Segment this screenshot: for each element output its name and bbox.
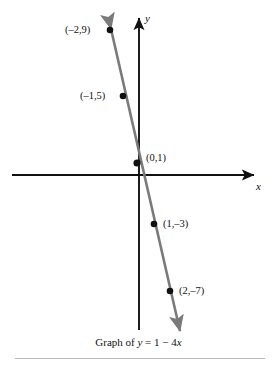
bottom-divider	[15, 358, 265, 359]
point-label: (2,–7)	[179, 286, 204, 297]
point-label: (0,1)	[146, 153, 166, 164]
point-label: (–1,5)	[80, 91, 105, 102]
caption-variable-x: x	[177, 336, 182, 348]
point-label: (–2,9)	[65, 25, 90, 36]
data-point	[107, 27, 114, 34]
data-point	[167, 288, 174, 295]
caption-equation-body: = 1 − 4	[142, 336, 176, 348]
y-axis-label: y	[145, 13, 150, 24]
coordinate-plane	[0, 0, 277, 367]
point-label: (1,–3)	[163, 219, 188, 230]
data-point	[120, 93, 127, 100]
data-point	[133, 159, 140, 166]
figure-caption: Graph of y = 1 − 4x	[0, 336, 277, 348]
data-point	[151, 221, 158, 228]
x-axis-label: x	[256, 181, 261, 192]
caption-prefix: Graph of	[95, 336, 137, 348]
plotted-line	[111, 29, 180, 331]
graph-figure: y x (–2,9) (–1,5) (0,1) (1,–3) (2,–7) Gr…	[0, 0, 277, 367]
